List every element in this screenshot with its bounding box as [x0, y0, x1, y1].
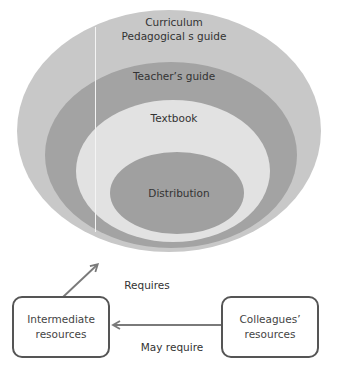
- colleagues-resources-box: Colleagues’ resources: [221, 296, 319, 358]
- may-require-label: May require: [137, 340, 207, 354]
- requires-arrow: [63, 265, 97, 297]
- curriculum-label-line-2: Pedagogical s guide: [99, 29, 249, 43]
- teachers-guide-label: Teacher’s guide: [99, 69, 249, 83]
- distribution-label: Distribution: [104, 186, 254, 200]
- requires-label: Requires: [122, 278, 172, 292]
- colleagues-line-1: Colleagues’: [239, 312, 300, 327]
- resource-layers-diagram: Curriculum Pedagogical s guide Teacher’s…: [0, 0, 339, 371]
- intermediate-line-2: resources: [27, 327, 95, 342]
- curriculum-label: Curriculum Pedagogical s guide: [99, 15, 249, 43]
- curriculum-label-line-1: Curriculum: [99, 15, 249, 29]
- intermediate-resources-box: Intermediate resources: [12, 296, 110, 358]
- colleagues-line-2: resources: [239, 327, 300, 342]
- intermediate-line-1: Intermediate: [27, 312, 95, 327]
- textbook-label: Textbook: [99, 111, 249, 125]
